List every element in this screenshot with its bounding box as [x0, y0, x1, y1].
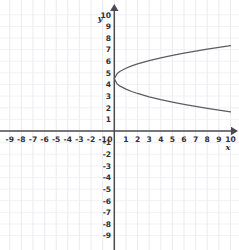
- graph-canvas: -9-8-7-6-5-4-3-2-1012345678910 109876543…: [0, 0, 239, 250]
- x-tick-label: -4: [64, 135, 72, 144]
- x-tick-label: -7: [29, 135, 37, 144]
- x-tick-label: 2: [135, 135, 140, 144]
- x-tick-label: 5: [170, 135, 175, 144]
- x-tick-label: 4: [158, 135, 163, 144]
- x-axis-label: x: [225, 142, 231, 152]
- y-tick-label: 6: [106, 57, 111, 66]
- x-tick-label: -9: [6, 135, 14, 144]
- y-tick-label: 5: [106, 69, 111, 78]
- x-tick-label: 1: [123, 135, 128, 144]
- x-tick-label: -8: [17, 135, 25, 144]
- horizontal-gridlines: [0, 15, 239, 236]
- x-tick-label: 8: [205, 135, 210, 144]
- x-tick-label: 7: [193, 135, 198, 144]
- y-tick-label: -2: [103, 150, 111, 159]
- y-tick-label: -8: [103, 220, 111, 229]
- y-tick-label: -4: [103, 173, 111, 182]
- coordinate-plane-svg: -9-8-7-6-5-4-3-2-1012345678910 109876543…: [0, 0, 239, 250]
- y-axis-tick-labels: 10987654321-1-2-3-4-5-6-7-8-9: [101, 11, 112, 241]
- y-tick-label: 9: [106, 22, 111, 31]
- y-axis-arrow-icon: [110, 4, 118, 11]
- y-tick-label: -6: [103, 197, 111, 206]
- y-tick-label: -5: [103, 185, 111, 194]
- y-tick-label: 2: [106, 104, 111, 113]
- y-tick-label: -1: [103, 138, 111, 147]
- x-tick-label: 9: [216, 135, 221, 144]
- x-tick-label: -3: [75, 135, 83, 144]
- y-tick-label: 3: [106, 92, 111, 101]
- x-axis-tick-labels: -9-8-7-6-5-4-3-2-1012345678910: [6, 135, 236, 144]
- y-tick-label: 8: [106, 34, 111, 43]
- y-tick-label: -7: [103, 208, 111, 217]
- y-tick-label: 7: [106, 45, 111, 54]
- y-tick-label: 1: [106, 115, 111, 124]
- x-tick-label: -6: [40, 135, 48, 144]
- x-tick-label: 6: [181, 135, 186, 144]
- x-tick-label: -5: [52, 135, 60, 144]
- axes: [0, 4, 238, 250]
- x-tick-label: -2: [87, 135, 95, 144]
- y-tick-label: -3: [103, 162, 111, 171]
- y-tick-label: 4: [106, 80, 111, 89]
- x-tick-label: 3: [147, 135, 152, 144]
- y-tick-label: -9: [103, 231, 111, 240]
